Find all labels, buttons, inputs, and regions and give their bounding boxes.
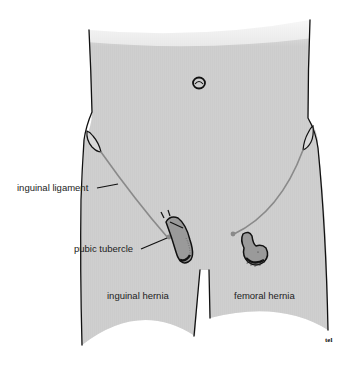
femoral-hernia-label: femoral hernia — [234, 291, 295, 301]
pubic-tubercle-label: pubic tubercle — [74, 244, 133, 254]
inguinal-hernia-label: inguinal hernia — [107, 291, 169, 301]
artist-signature: tel — [325, 336, 332, 344]
inguinal-ligament-label: inguinal ligament — [17, 183, 88, 193]
right-pubic-tubercle — [231, 232, 236, 237]
